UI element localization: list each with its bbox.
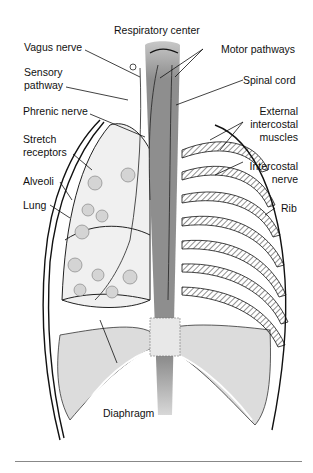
- label-rib: Rib: [281, 202, 297, 214]
- label-intercostal-nerve-2: nerve: [272, 173, 298, 185]
- label-intercostal-nerve-1: Intercostal: [250, 160, 298, 172]
- label-external-intercostal-2: intercostal: [250, 118, 298, 130]
- bottom-rule: [15, 461, 302, 462]
- label-spinal-cord: Spinal cord: [243, 74, 296, 86]
- label-external-intercostal-1: External: [259, 105, 298, 117]
- label-diaphragm: Diaphragm: [103, 407, 154, 419]
- label-external-intercostal-3: muscles: [259, 131, 298, 143]
- left-lung: [62, 124, 150, 308]
- label-alveoli: Alveoli: [23, 175, 54, 187]
- label-sensory-pathway-1: Sensory: [24, 66, 63, 78]
- label-phrenic-nerve: Phrenic nerve: [23, 105, 88, 117]
- label-vagus-nerve: Vagus nerve: [24, 41, 82, 53]
- label-stretch-receptors-2: receptors: [23, 146, 67, 158]
- label-sensory-pathway-2: pathway: [24, 79, 63, 91]
- label-lung: Lung: [23, 199, 46, 211]
- label-motor-pathways: Motor pathways: [221, 43, 295, 55]
- label-respiratory-center: Respiratory center: [114, 24, 200, 36]
- label-stretch-receptors-1: Stretch: [23, 133, 56, 145]
